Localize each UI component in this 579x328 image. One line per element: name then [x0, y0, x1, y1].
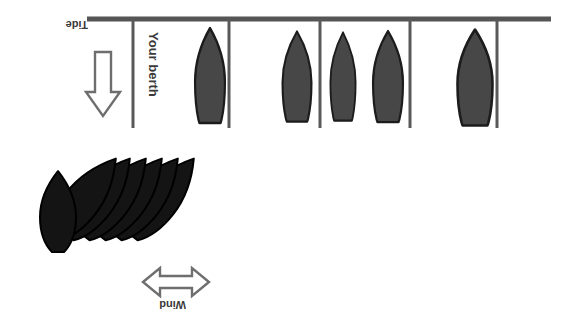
wind-arrow — [143, 268, 209, 296]
rafted-boat-lead — [40, 171, 76, 252]
moored-boat-1 — [195, 28, 225, 123]
moored-boats-group — [195, 28, 492, 126]
tide-label: Tide — [66, 19, 88, 30]
wind-label: Wind — [159, 299, 186, 310]
diagram-canvas: Tide Your berth Wind — [0, 0, 579, 328]
your-berth-label: Your berth — [147, 32, 160, 97]
rafted-boat-cluster — [40, 148, 208, 253]
marina-diagram-svg — [0, 0, 579, 328]
tide-arrow — [86, 52, 120, 116]
moored-boat-4 — [373, 31, 403, 122]
moored-boat-3 — [330, 33, 355, 121]
finger-piers-group — [133, 19, 497, 128]
moored-boat-5 — [457, 29, 492, 125]
moored-boat-2 — [283, 31, 312, 121]
